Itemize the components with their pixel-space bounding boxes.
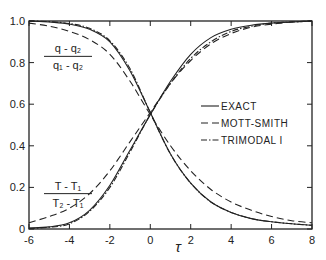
legend-item-exact: EXACT (201, 101, 257, 112)
x-tick-label: 8 (309, 234, 315, 246)
legend: EXACTMOTT-SMITHTRIMODAL I (201, 101, 288, 146)
x-tick-label: 2 (188, 234, 194, 246)
x-tick-label: -4 (65, 234, 75, 246)
y-tick-label: 0.4 (10, 140, 25, 152)
density-ratio-label: q - q₂q₁ - q₂ (44, 42, 92, 71)
x-tick-label: -2 (105, 234, 115, 246)
line-chart: -6-4-202468 00.20.40.60.81.0 q - q₂q₁ - … (0, 0, 326, 260)
x-tick-label: -6 (24, 234, 34, 246)
fraction-numerator: q - q₂ (55, 42, 81, 54)
chart-container: -6-4-202468 00.20.40.60.81.0 q - q₂q₁ - … (0, 0, 326, 260)
legend-label: MOTT-SMITH (221, 118, 288, 129)
x-tick-label: 4 (228, 234, 234, 246)
fraction-denominator: T₂ - T₁ (53, 197, 84, 209)
legend-item-mott-smith: MOTT-SMITH (201, 118, 288, 129)
x-axis-label: τ (175, 238, 182, 255)
legend-label: EXACT (221, 101, 257, 112)
fraction-numerator: T - T₁ (55, 180, 82, 192)
y-tick-label: 0.8 (10, 57, 25, 69)
x-axis: -6-4-202468 (24, 21, 315, 246)
x-tick-label: 0 (147, 234, 153, 246)
fraction-denominator: q₁ - q₂ (53, 59, 83, 71)
y-tick-label: 0 (19, 223, 25, 235)
legend-item-trimodal-i: TRIMODAL I (201, 135, 283, 146)
temperature-ratio-label: T - T₁T₂ - T₁ (44, 180, 92, 209)
x-tick-label: 6 (269, 234, 275, 246)
annotations: q - q₂q₁ - q₂T - T₁T₂ - T₁ (44, 42, 92, 208)
y-tick-label: 0.6 (10, 98, 25, 110)
y-tick-label: 0.2 (10, 181, 25, 193)
legend-label: TRIMODAL I (221, 135, 283, 146)
y-tick-label: 1.0 (10, 15, 25, 27)
